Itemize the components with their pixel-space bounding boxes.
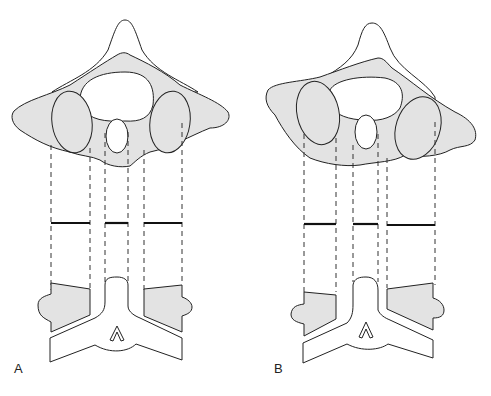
left-lower-lateral-mass: [291, 292, 336, 336]
spinal-canal: [330, 77, 402, 120]
dens: [355, 115, 377, 149]
panel-a: [12, 20, 229, 362]
dens: [106, 119, 128, 153]
diagram-canvas: [0, 0, 491, 396]
panel-b: [266, 23, 476, 363]
panel-label-a: A: [14, 361, 23, 376]
panel-label-b: B: [274, 361, 283, 376]
